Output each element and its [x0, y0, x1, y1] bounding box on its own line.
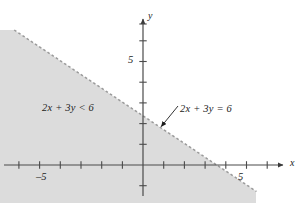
equation-label: 2x + 3y = 6 — [180, 104, 232, 115]
y-tick-label-5: 5 — [128, 55, 133, 66]
x-tick-label-5: 5 — [238, 172, 243, 183]
x-axis-title: x — [290, 158, 294, 168]
y-axis-title: y — [148, 11, 152, 21]
equation-leader-arrow — [161, 106, 178, 127]
inequality-graph-figure: 2x + 3y < 6 2x + 3y = 6 x y –5 5 5 — [0, 0, 303, 203]
inequality-label: 2x + 3y < 6 — [42, 103, 94, 114]
x-tick-label-minus-5: –5 — [36, 172, 47, 183]
